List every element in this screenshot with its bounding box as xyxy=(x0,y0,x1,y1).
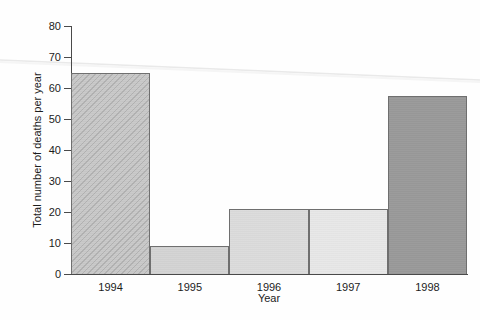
y-tick-mark xyxy=(64,26,71,27)
y-tick-label: 30 xyxy=(49,176,61,187)
bar-1997 xyxy=(309,209,388,274)
y-tick-mark xyxy=(64,181,71,182)
bar-1996 xyxy=(229,209,308,274)
y-tick-mark xyxy=(64,212,71,213)
y-tick-label: 10 xyxy=(49,238,61,249)
y-tick-label: 0 xyxy=(55,269,61,280)
y-tick-label: 50 xyxy=(49,114,61,125)
bar-1994 xyxy=(71,73,150,275)
bar-chart-figure: 0 10 20 30 40 50 60 70 80 1994 1995 1996… xyxy=(0,0,480,320)
x-axis-title: Year xyxy=(71,292,467,304)
y-tick-label: 40 xyxy=(49,145,61,156)
y-tick-mark xyxy=(64,119,71,120)
bar-1998 xyxy=(388,96,467,274)
plot-area: 0 10 20 30 40 50 60 70 80 1994 1995 1996… xyxy=(71,26,467,274)
y-tick-label: 20 xyxy=(49,207,61,218)
y-tick-mark xyxy=(64,243,71,244)
bar-1995 xyxy=(150,246,229,274)
x-axis-line xyxy=(71,274,468,275)
y-axis-title: Total number of deaths per year xyxy=(26,26,48,274)
y-tick-mark xyxy=(64,274,71,275)
y-tick-label: 80 xyxy=(49,21,61,32)
y-tick-label: 70 xyxy=(49,52,61,63)
y-tick-mark xyxy=(64,57,71,58)
y-tick-mark xyxy=(64,88,71,89)
y-tick-mark xyxy=(64,150,71,151)
y-tick-label: 60 xyxy=(49,83,61,94)
